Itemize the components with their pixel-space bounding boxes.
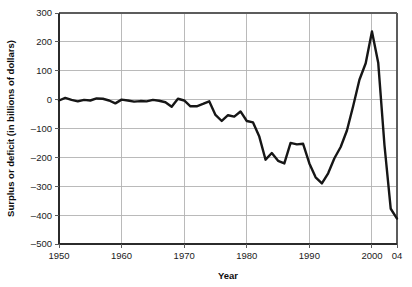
- x-axis-title: Year: [218, 270, 238, 281]
- x-tick-label: 1950: [48, 250, 69, 261]
- y-tick-label: 200: [36, 36, 52, 47]
- y-tick-label: –200: [31, 152, 52, 163]
- y-tick-label: –400: [31, 210, 52, 221]
- y-tick-label: 0: [47, 94, 52, 105]
- x-tick-label: 1960: [111, 250, 132, 261]
- y-tick-label: –300: [31, 181, 52, 192]
- y-tick-label: 300: [36, 7, 52, 18]
- y-axis-title: Surplus or deficit (in billions of dolla…: [5, 40, 16, 217]
- y-tick-label: 100: [36, 65, 52, 76]
- x-tick-label: 1990: [299, 250, 320, 261]
- x-tick-label: 1980: [236, 250, 257, 261]
- y-tick-label: –100: [31, 123, 52, 134]
- x-tick-label: 2000: [361, 250, 382, 261]
- x-tick-label: 1970: [174, 250, 195, 261]
- y-tick-label: –500: [31, 238, 52, 249]
- budget-deficit-line-chart: 3002001000–100–200–300–400–500 195019601…: [0, 0, 412, 287]
- x-tick-label: 04: [392, 250, 403, 261]
- chart-container: 3002001000–100–200–300–400–500 195019601…: [0, 0, 412, 287]
